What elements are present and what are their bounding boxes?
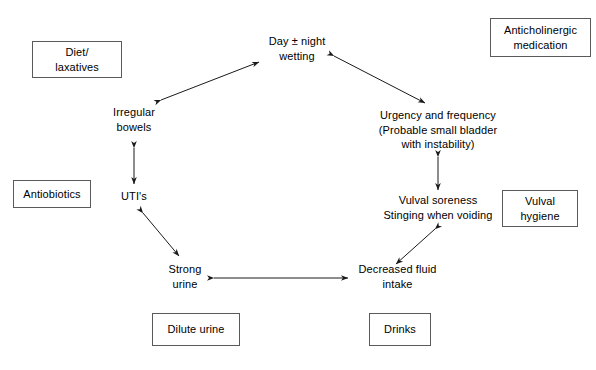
node-strong-urine: Strong urine: [155, 262, 215, 291]
arrow-irregular-bowels-to-wetting: [161, 62, 259, 100]
arrow-utis-to-strong-urine: [143, 213, 179, 256]
node-urgency-frequency: Urgency and frequency (Probable small bl…: [358, 108, 518, 152]
box-drinks[interactable]: Drinks: [369, 313, 431, 346]
node-irregular-bowels: Irregular bowels: [94, 105, 174, 134]
node-decreased-fluid-intake: Decreased fluid intake: [345, 262, 450, 291]
box-vulval-hygiene[interactable]: Vulval hygiene: [502, 190, 578, 227]
arrow-vulval-soreness-to-decreased-fluid: [396, 229, 435, 264]
box-diet-laxatives[interactable]: Diet/ laxatives: [32, 41, 122, 78]
box-anticholinergic-medication[interactable]: Anticholinergic medication: [490, 18, 591, 57]
diagram-canvas: Day ± night wetting Irregular bowels Urg…: [0, 0, 596, 370]
node-utis: UTI's: [104, 189, 164, 204]
arrow-wetting-to-urgency: [334, 56, 425, 103]
box-antiobiotics[interactable]: Antiobiotics: [13, 180, 91, 208]
node-vulval-soreness: Vulval soreness Stinging when voiding: [358, 193, 518, 222]
box-dilute-urine[interactable]: Dilute urine: [152, 313, 240, 346]
node-day-night-wetting: Day ± night wetting: [247, 34, 347, 63]
